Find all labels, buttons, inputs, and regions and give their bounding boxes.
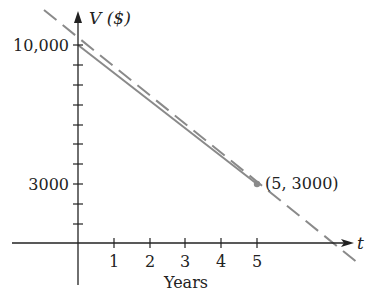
value-line-solid: [78, 45, 257, 184]
x-axis-title: Years: [163, 273, 208, 292]
y-tick-label-3000: 3000: [28, 175, 69, 194]
x-tick-label-4: 4: [216, 252, 226, 271]
x-axis-symbol: t: [357, 233, 364, 253]
x-tick-label-2: 2: [145, 252, 155, 271]
x-tick-label-5: 5: [252, 252, 262, 271]
x-tick-label-1: 1: [109, 252, 119, 271]
dashed-extension-line: [44, 10, 358, 263]
y-axis-label: V ($): [89, 8, 131, 28]
x-tick-label-3: 3: [180, 252, 190, 271]
depreciation-chart: V ($) 10,000 3000 1 2 3 4 5 Years t (5, …: [0, 0, 369, 308]
y-tick-label-10000: 10,000: [13, 36, 69, 55]
data-point-5-3000: [254, 181, 260, 187]
point-annotation: (5, 3000): [265, 174, 339, 193]
y-axis-arrow-icon: [74, 11, 82, 23]
